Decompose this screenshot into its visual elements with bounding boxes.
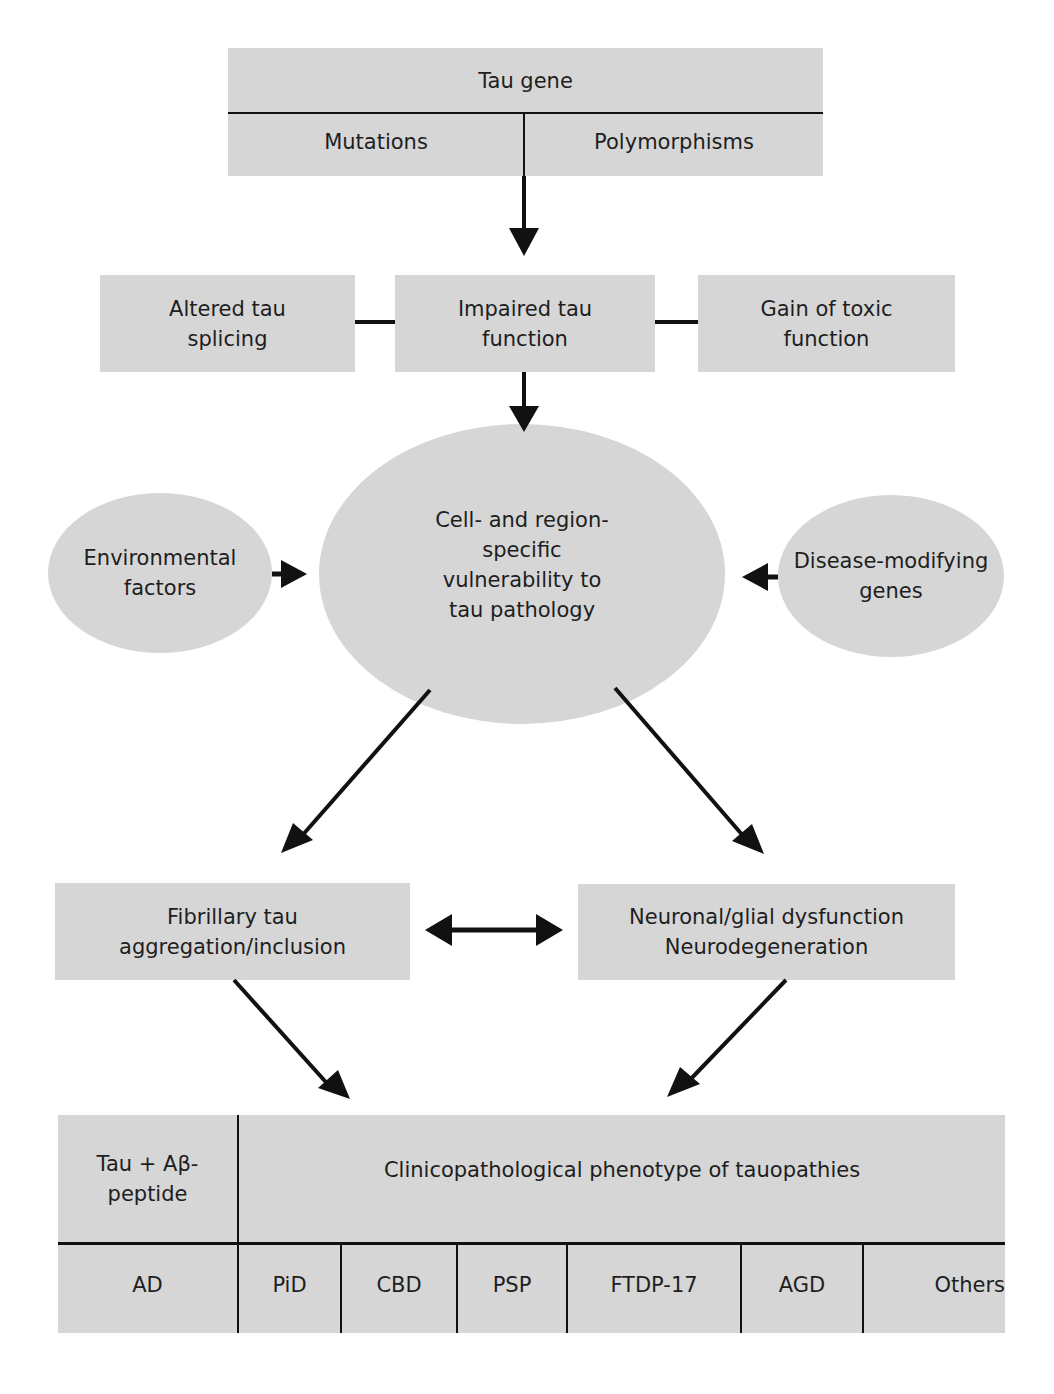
arrows-layer: [0, 0, 1054, 1394]
double-arrow-icon: [425, 914, 563, 946]
arrow-to-table-left-icon: [234, 980, 350, 1099]
arrow-diag-left-icon: [281, 690, 430, 853]
arrow-right-env-icon: [272, 560, 307, 588]
arrow-diag-right-icon: [615, 688, 764, 854]
arrow-to-table-right-icon: [667, 980, 786, 1097]
arrow-left-genes-icon: [742, 563, 778, 591]
arrow-down-1-icon: [509, 176, 539, 256]
arrow-down-2-icon: [509, 372, 539, 432]
